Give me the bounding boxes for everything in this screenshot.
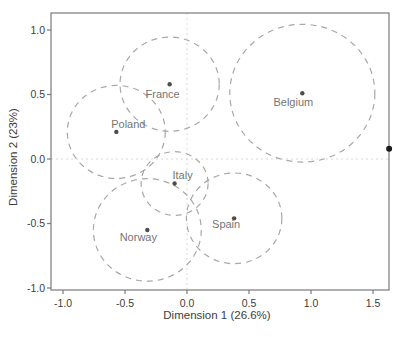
point-label-norway: Norway [120, 231, 158, 243]
x-tick-label: 0.0 [180, 297, 195, 309]
plot-area: -1.0-0.50.00.51.01.5-1.0-0.50.00.51.0Fra… [27, 13, 392, 309]
point-label-poland: Poland [111, 118, 145, 130]
point-france [167, 82, 171, 86]
y-tick-label: -1.0 [27, 282, 45, 294]
y-tick-label: -0.5 [27, 217, 45, 229]
x-tick-label: -1.0 [54, 297, 72, 309]
point-label-spain: Spain [212, 218, 240, 230]
y-tick-label: 1.0 [30, 24, 45, 36]
x-tick-label: -0.5 [116, 297, 134, 309]
y-axis-title: Dimension 2 (23%) [7, 108, 19, 206]
y-tick-label: 0.5 [30, 88, 45, 100]
x-axis-title: Dimension 1 (26.6%) [163, 309, 271, 321]
y-tick-label: 0.0 [30, 153, 45, 165]
point-label-france: France [146, 88, 180, 100]
point-label-belgium: Belgium [273, 96, 313, 108]
correspondence-analysis-plot: -1.0-0.50.00.51.01.5-1.0-0.50.00.51.0Fra… [0, 0, 403, 337]
x-tick-label: 1.5 [366, 297, 381, 309]
chart-canvas: -1.0-0.50.00.51.01.5-1.0-0.50.00.51.0Fra… [0, 0, 403, 337]
point-label-italy: Italy [173, 169, 194, 181]
point-italy [172, 181, 176, 185]
x-tick-label: 1.0 [304, 297, 319, 309]
x-tick-label: 0.5 [242, 297, 257, 309]
clipped-edge-point [386, 146, 392, 152]
plot-frame [51, 13, 389, 290]
